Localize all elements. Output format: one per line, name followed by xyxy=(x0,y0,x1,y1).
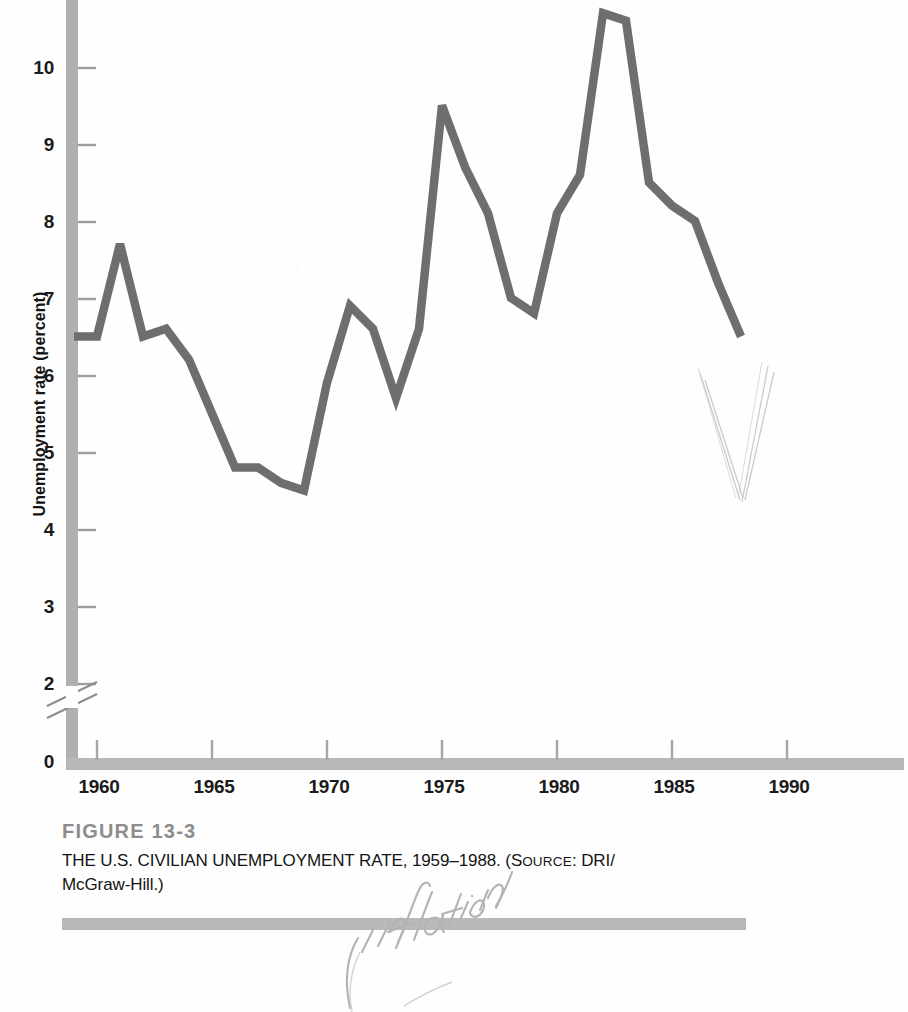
pencil-v-marks xyxy=(700,366,774,502)
x-axis-tick-labels: 1960 1965 1970 1975 1980 1985 1990 xyxy=(0,777,908,807)
y-axis-title: Unemployment rate (percent) xyxy=(31,244,49,564)
caption-years-after: 1988. ( xyxy=(459,851,511,870)
x-tick-1980: 1980 xyxy=(538,777,579,796)
y-axis-break-gap xyxy=(66,686,78,708)
y-tick-8: 8 xyxy=(18,212,54,231)
x-tick-1990: 1990 xyxy=(768,777,809,796)
y-tick-9: 9 xyxy=(18,135,54,154)
handwritten-faint-strokes xyxy=(350,952,452,1012)
y-axis-line xyxy=(66,0,78,770)
x-tick-1960: 1960 xyxy=(78,777,119,796)
x-axis-line xyxy=(66,758,904,770)
scanned-page: 10 9 8 7 6 5 4 3 2 0 1960 1965 1970 1975… xyxy=(0,0,908,1012)
x-tick-1965: 1965 xyxy=(193,777,234,796)
bottom-divider-rule xyxy=(62,918,746,930)
chart-figure: 10 9 8 7 6 5 4 3 2 0 1960 1965 1970 1975… xyxy=(0,0,908,800)
y-tick-0: 0 xyxy=(18,752,54,771)
y-tick-2: 2 xyxy=(18,674,54,693)
pencil-faint-marks xyxy=(698,362,762,499)
y-tick-10: 10 xyxy=(18,58,54,77)
source-label-cap: S xyxy=(511,851,522,870)
unemployment-rate-line xyxy=(74,13,741,490)
figure-caption: FIGURE 13-3 THE U.S. CIVILIAN UNEMPLOYME… xyxy=(62,820,622,897)
caption-main: THE U.S. CIVILIAN UNEMPLOYMENT RATE, 195… xyxy=(62,851,449,870)
source-label-smallcaps: OURCE xyxy=(522,854,572,869)
x-tick-marks xyxy=(97,740,787,760)
figure-caption-text: THE U.S. CIVILIAN UNEMPLOYMENT RATE, 195… xyxy=(62,849,622,897)
unemployment-line-chart xyxy=(0,0,908,800)
y-tick-3: 3 xyxy=(18,597,54,616)
figure-number: FIGURE 13-3 xyxy=(62,820,622,843)
source-value: : DRI/ xyxy=(572,851,615,870)
x-tick-1975: 1975 xyxy=(423,777,464,796)
x-tick-1970: 1970 xyxy=(308,777,349,796)
caption-line-2: McGraw-Hill.) xyxy=(62,875,164,894)
x-tick-1985: 1985 xyxy=(653,777,694,796)
caption-dash: – xyxy=(449,851,458,870)
y-tick-marks xyxy=(78,68,96,684)
